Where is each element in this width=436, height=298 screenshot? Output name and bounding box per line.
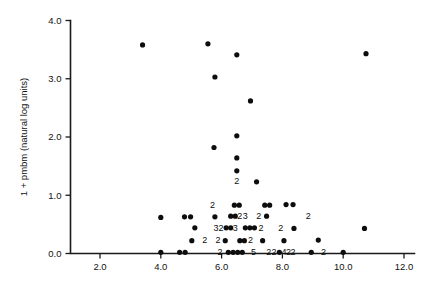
scatter-point [341,250,346,255]
point-count-label: 2 [271,247,276,257]
scatter-point [212,214,217,219]
scatter-point [234,133,239,138]
scatter-point [262,203,267,208]
y-axis-label-text: 1 + pmbm (natural log units) [18,78,29,197]
x-tick-label: 10.0 [334,261,353,272]
scatter-point [188,214,193,219]
scatter-point [212,74,217,79]
scatter-point [252,225,257,230]
point-count-label: 5 [251,247,256,257]
scatter-point [232,203,237,208]
data-points [140,41,369,255]
scatter-point [234,168,239,173]
scatter-point [240,250,245,255]
scatter-point [291,226,296,231]
scatter-point [234,52,239,57]
scatter-point [224,225,229,230]
scatter-point [248,98,253,103]
scatter-point [211,145,216,150]
point-count-label: 2 [218,247,223,257]
scatter-point [140,42,145,47]
scatter-point [316,238,321,243]
scatter-point [183,250,188,255]
point-count-label: 2 [248,235,253,245]
point-count-label: 2 [259,223,264,233]
x-tick-label: 8.0 [276,261,289,272]
scatter-point [231,250,236,255]
point-count-label: 2 [256,211,261,221]
scatter-plot-figure: 0.01.02.03.04.02.04.06.08.010.012.0 1 + … [0,0,436,298]
scatter-point [158,250,163,255]
scatter-point [242,238,247,243]
y-tick-label: 3.0 [48,73,61,84]
scatter-point [267,203,272,208]
point-count-label: 2 [218,223,223,233]
scatter-point [177,250,182,255]
x-tick-label: 4.0 [154,261,167,272]
scatter-point [189,238,194,243]
scatter-point [237,238,242,243]
y-tick-label: 4.0 [48,15,61,26]
point-count-label: 2 [291,247,296,257]
point-count-label: 2 [202,235,207,245]
axis-ticks: 0.01.02.03.04.02.04.06.08.010.012.0 [48,15,413,272]
point-count-label: 3 [243,211,248,221]
scatter-point [237,203,242,208]
point-count-label: 2 [306,211,311,221]
point-count-label: 2 [321,247,326,257]
point-count-label: 2 [210,200,215,210]
point-count-label: 2 [234,176,239,186]
scatter-point [205,41,210,46]
scatter-point [309,250,314,255]
scatter-point [260,238,265,243]
y-tick-label: 0.0 [48,248,61,259]
scatter-point [228,214,233,219]
y-axis-title: 1 + pmbm (natural log units) [18,78,29,197]
scatter-point [283,202,288,207]
scatter-point [158,215,163,220]
x-tick-label: 6.0 [215,261,228,272]
scatter-point [290,202,295,207]
scatter-point [264,214,269,219]
scatter-point [234,155,239,160]
scatter-point [235,250,240,255]
point-count-label: 3 [233,223,238,233]
y-tick-label: 2.0 [48,131,61,142]
scatter-point [226,250,231,255]
scatter-point [223,238,228,243]
point-count-label: 2 [237,211,242,221]
point-count-label: 2 [278,223,283,233]
scatter-point [182,214,187,219]
scatter-point [247,225,252,230]
x-tick-label: 2.0 [93,261,106,272]
y-tick-label: 1.0 [48,190,61,201]
scatter-point [243,225,248,230]
scatter-point [254,179,259,184]
plot-canvas: 0.01.02.03.04.02.04.06.08.010.012.0 1 + … [0,0,436,298]
scatter-point [281,238,286,243]
x-tick-label: 12.0 [395,261,414,272]
scatter-point [192,225,197,230]
scatter-point [363,51,368,56]
point-count-label: 2 [215,235,220,245]
scatter-point [362,226,367,231]
